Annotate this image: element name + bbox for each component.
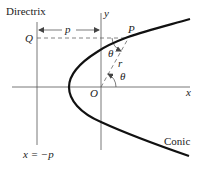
distance-p-label: p	[64, 23, 71, 35]
x-axis-label: x	[185, 86, 191, 98]
point-p-label: P	[127, 23, 135, 35]
angle-theta-bottom-label: θ	[120, 70, 126, 82]
radius-label: r	[118, 57, 123, 69]
angle-arc-bottom	[108, 74, 116, 87]
origin-label: O	[90, 87, 98, 99]
directrix-label: Directrix	[6, 5, 46, 17]
conic-diagram: Directrix y x O P Q p r θ θ x = −p Conic	[0, 0, 202, 173]
conic-label: Conic	[164, 135, 190, 147]
directrix-equation-label: x = −p	[22, 148, 54, 160]
angle-theta-top-label: θ	[108, 47, 114, 59]
point-q-label: Q	[25, 32, 33, 44]
y-axis-label: y	[103, 7, 109, 19]
